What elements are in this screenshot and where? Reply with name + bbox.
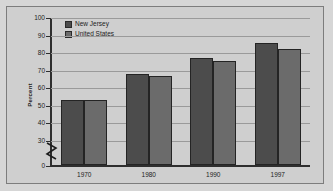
bar-new-jersey xyxy=(190,58,213,165)
x-axis-line xyxy=(50,165,310,167)
y-tick-label: 0 xyxy=(41,163,45,170)
y-tick-label: 90 xyxy=(38,32,45,39)
y-tick xyxy=(46,18,51,19)
y-tick-label: 100 xyxy=(34,15,45,22)
y-tick xyxy=(46,71,51,72)
y-tick-label: 60 xyxy=(38,85,45,92)
bar-group: 1997 xyxy=(246,18,311,165)
bar-united-states xyxy=(278,49,301,165)
chart-frame: Percent New Jersey United States 1009080… xyxy=(6,6,324,184)
y-tick xyxy=(46,88,51,89)
y-tick xyxy=(46,36,51,37)
x-axis-label: 1990 xyxy=(181,172,246,179)
bar-new-jersey xyxy=(61,100,84,165)
y-tick-label: 80 xyxy=(38,50,45,57)
bar-group: 1970 xyxy=(52,18,117,165)
x-axis-label: 1980 xyxy=(117,172,182,179)
cropped-title-strip xyxy=(0,0,333,5)
y-tick-label: 40 xyxy=(38,120,45,127)
plot-area: 100908070605040300 1970198019901997 xyxy=(50,18,310,167)
bar-new-jersey xyxy=(255,43,278,165)
bar-group: 1980 xyxy=(117,18,182,165)
bar-united-states xyxy=(84,100,107,165)
y-tick xyxy=(46,123,51,124)
bar-new-jersey xyxy=(126,74,149,165)
bar-united-states xyxy=(149,76,172,165)
y-tick xyxy=(46,106,51,107)
y-axis-title: Percent xyxy=(27,83,33,106)
x-axis-label: 1970 xyxy=(52,172,117,179)
bar-groups: 1970198019901997 xyxy=(52,18,310,165)
y-tick xyxy=(46,53,51,54)
y-tick xyxy=(46,166,51,167)
x-axis-label: 1997 xyxy=(246,172,311,179)
y-tick-label: 70 xyxy=(38,67,45,74)
y-tick-label: 30 xyxy=(38,138,45,145)
bar-united-states xyxy=(213,61,236,165)
y-tick-label: 50 xyxy=(38,103,45,110)
bar-group: 1990 xyxy=(181,18,246,165)
chart-screenshot: Percent New Jersey United States 1009080… xyxy=(0,0,333,191)
